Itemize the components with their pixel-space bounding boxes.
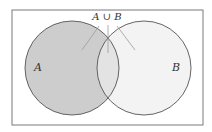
set-b-label: B bbox=[171, 61, 180, 74]
union-annotation: A ∪ B bbox=[91, 11, 121, 22]
venn-diagram: A B A ∪ B bbox=[0, 0, 212, 132]
venn-svg: A B A ∪ B bbox=[0, 0, 212, 132]
set-a-label: A bbox=[33, 61, 42, 74]
